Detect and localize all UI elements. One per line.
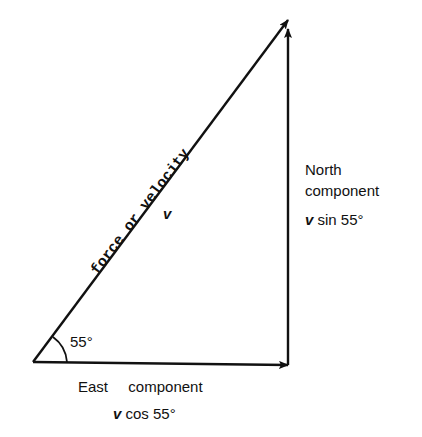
east-component-label: East component	[78, 378, 203, 395]
north-label-line2: component	[305, 182, 379, 199]
angle-arc	[53, 337, 67, 362]
east-component-formula: v cos 55°	[113, 405, 176, 422]
component-word: component	[128, 378, 202, 395]
north-component-formula: v sin 55°	[305, 211, 364, 228]
formula-text: cos 55°	[121, 405, 175, 422]
formula-text: sin 55°	[313, 211, 363, 228]
hypotenuse-symbol: v	[163, 205, 171, 222]
east-word: East	[78, 378, 108, 395]
east-component-arrow	[33, 362, 288, 365]
angle-label: 55°	[70, 333, 93, 350]
north-label-line1: North	[305, 161, 342, 178]
